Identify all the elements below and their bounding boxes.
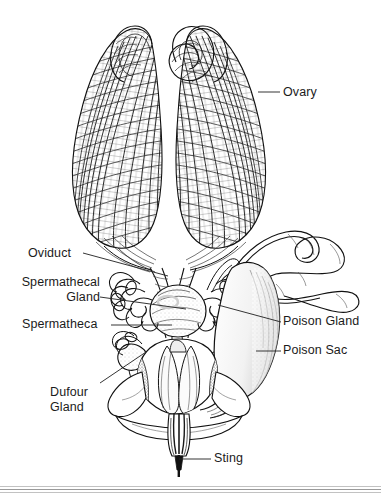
label-spermatheca: Spermatheca [22,318,97,332]
footer-rule-2 [0,489,381,490]
label-dufour-gland-line2: Gland [50,400,130,415]
label-dufour-gland: Dufour Gland [50,385,130,414]
anatomy-figure: Ovary Oviduct Spermathecal Gland Spermat… [0,0,381,499]
label-ovary: Ovary [283,86,317,100]
left-ovary-shape [61,26,168,272]
sting-shaft-shape [168,414,190,477]
label-dufour-gland-line1: Dufour [50,385,130,400]
label-spermathecal-gland: Spermathecal Gland [0,275,100,304]
label-spermathecal-gland-line1: Spermathecal [0,275,100,290]
leader-oviduct [83,253,168,276]
label-poison-sac: Poison Sac [283,344,347,358]
right-ovary-shape [169,26,277,272]
footer-rule-1 [0,486,381,487]
label-poison-gland: Poison Gland [283,315,359,329]
label-oviduct: Oviduct [28,247,71,261]
label-spermathecal-gland-line2: Gland [0,290,100,305]
footer-rule-3 [0,492,381,493]
label-sting: Sting [214,452,243,466]
